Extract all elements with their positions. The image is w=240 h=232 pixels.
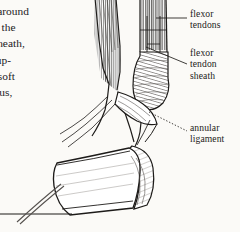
label-line: annular [190,122,224,133]
hoof [0,146,154,215]
label-annular-ligament: annular ligament [190,122,224,145]
body-text-line: os around [0,3,70,19]
label-line: tendons [190,19,221,30]
figure-page: os around ing the n sheath, s sup- ed so… [0,0,240,232]
label-flexor-tendons: flexor tendons [190,8,221,31]
label-line: tendon [190,58,217,69]
label-flexor-tendon-sheath: flexor tendon sheath [190,47,217,81]
body-text-line: n sheath, [0,35,70,51]
body-text-line: orous, [0,84,70,100]
body-text-line-partial: t [0,100,70,116]
label-line: ligament [190,133,224,144]
body-text-column: os around ing the n sheath, s sup- ed so… [0,3,70,116]
tendon-bundle-right [140,0,167,52]
label-line: sheath [190,70,217,81]
label-line: flexor [190,47,217,58]
body-text-line: ed soft [0,68,70,84]
body-text-line: ing the [0,19,70,35]
body-text-line: s sup- [0,52,70,68]
tendon-bundle-left [94,0,121,92]
label-line: flexor [190,8,221,19]
